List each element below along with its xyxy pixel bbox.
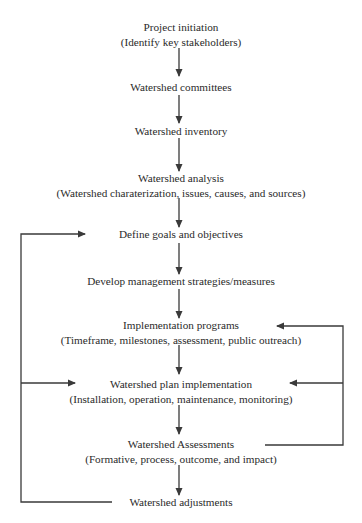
node-title: Watershed adjustments bbox=[0, 495, 362, 510]
node-title: Watershed Assessments bbox=[0, 437, 362, 452]
node-subtitle: (Installation, operation, maintenance, m… bbox=[0, 392, 362, 407]
node-subtitle: (Identify key stakeholders) bbox=[0, 35, 362, 50]
node-title: Watershed committees bbox=[0, 80, 362, 95]
node-watershed-assessments: Watershed Assessments (Formative, proces… bbox=[0, 437, 362, 467]
node-develop-strategies: Develop management strategies/measures bbox=[0, 274, 362, 289]
node-title: Implementation programs bbox=[0, 318, 362, 333]
node-title: Develop management strategies/measures bbox=[0, 274, 362, 289]
node-subtitle: (Formative, process, outcome, and impact… bbox=[0, 452, 362, 467]
node-title: Watershed plan implementation bbox=[0, 377, 362, 392]
node-title: Watershed inventory bbox=[0, 124, 362, 139]
node-implementation-programs: Implementation programs (Timeframe, mile… bbox=[0, 318, 362, 348]
node-watershed-analysis: Watershed analysis (Watershed charateriz… bbox=[0, 171, 362, 201]
node-subtitle: (Timeframe, milestones, assessment, publ… bbox=[0, 333, 362, 348]
node-plan-implementation: Watershed plan implementation (Installat… bbox=[0, 377, 362, 407]
node-watershed-committees: Watershed committees bbox=[0, 80, 362, 95]
node-title: Watershed analysis bbox=[0, 171, 362, 186]
node-define-goals: Define goals and objectives bbox=[0, 227, 362, 242]
node-subtitle: (Watershed charaterization, issues, caus… bbox=[0, 186, 362, 201]
node-title: Define goals and objectives bbox=[0, 227, 362, 242]
node-watershed-inventory: Watershed inventory bbox=[0, 124, 362, 139]
node-title: Project initiation bbox=[0, 20, 362, 35]
node-project-initiation: Project initiation (Identify key stakeho… bbox=[0, 20, 362, 50]
node-watershed-adjustments: Watershed adjustments bbox=[0, 495, 362, 510]
